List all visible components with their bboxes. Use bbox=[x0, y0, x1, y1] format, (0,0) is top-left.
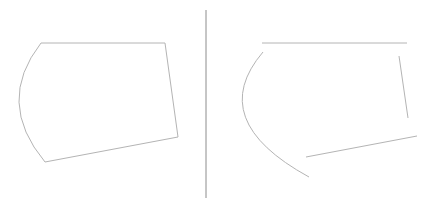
right-figure bbox=[242, 43, 417, 177]
left-arc bbox=[19, 43, 45, 162]
right-right-edge bbox=[399, 56, 408, 118]
left-bottom-edge bbox=[45, 137, 178, 162]
left-figure bbox=[19, 43, 178, 162]
right-arc bbox=[242, 52, 309, 177]
right-bottom-edge bbox=[306, 136, 417, 157]
diagram-canvas bbox=[0, 0, 432, 207]
left-right-edge bbox=[165, 43, 178, 137]
